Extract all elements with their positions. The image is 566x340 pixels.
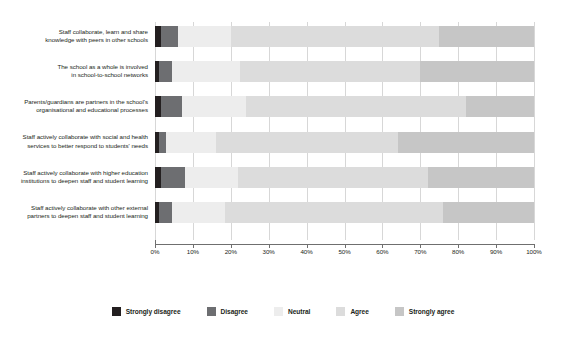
bar-segment [420,61,534,82]
chart-legend: Strongly disagreeDisagreeNeutralAgreeStr… [0,296,566,326]
tick-60 [382,244,383,248]
legend-swatch-icon [336,307,345,316]
x-tick-label-60: 60% [369,248,395,255]
category-label-line: Staff collaborate, learn and share [0,28,148,36]
category-label-line: knowledge with peers in other schools [0,36,148,44]
tick-90 [496,244,497,248]
tick-100 [534,244,535,248]
bar-segment [159,61,172,82]
bar-segment [240,61,420,82]
tick-20 [231,244,232,248]
tick-10 [193,244,194,248]
bar-segment [166,132,215,153]
category-label-line: Staff actively collaborate with higher e… [0,169,148,177]
gridline-100 [534,22,535,240]
tick-40 [307,244,308,248]
bar-segment [172,61,240,82]
bar-segment [246,96,466,117]
bar-row [155,26,534,47]
legend-item[interactable]: Neutral [274,307,310,316]
bar-row [155,167,534,188]
x-tick-label-30: 30% [256,248,282,255]
category-label: Staff actively collaborate with social a… [0,133,148,149]
bar-segment [231,26,439,47]
x-tick-label-70: 70% [407,248,433,255]
x-tick-label-10: 10% [180,248,206,255]
bar-segment [161,96,182,117]
bar-segment [439,26,534,47]
category-label-line: institutions to deepen staff and student… [0,177,148,185]
bar-row [155,202,534,223]
tick-50 [345,244,346,248]
legend-swatch-icon [274,307,283,316]
bar-segment [185,167,238,188]
bar-rows [155,22,534,240]
category-label-line: in school-to-school networks [0,71,148,79]
bar-segment [172,202,225,223]
category-axis-labels: Staff collaborate, learn and shareknowle… [0,22,148,240]
bar-segment [159,202,172,223]
legend-label: Neutral [288,308,310,315]
legend-label: Strongly agree [409,308,454,315]
legend-label: Disagree [221,308,248,315]
x-tick-label-20: 20% [218,248,244,255]
category-label-line: services to better respond to students' … [0,142,148,150]
x-tick-label-90: 90% [483,248,509,255]
bar-segment [178,26,231,47]
x-tick-label-0: 0% [142,248,168,255]
legend-item[interactable]: Disagree [207,307,248,316]
bar-segment [238,167,428,188]
category-label: Parents/guardians are partners in the sc… [0,98,148,114]
bar-segment [159,132,167,153]
category-label-line: Parents/guardians are partners in the sc… [0,98,148,106]
x-axis-tick-labels: 0%10%20%30%40%50%60%70%80%90%100% [0,248,566,262]
category-label-line: The school as a whole is involved [0,63,148,71]
tick-70 [420,244,421,248]
bar-segment [182,96,246,117]
category-label-line: Staff actively collaborate with other ex… [0,204,148,212]
legend-label: Strongly disagree [126,308,181,315]
category-label-line: Staff actively collaborate with social a… [0,133,148,141]
legend-swatch-icon [207,307,216,316]
category-label-line: organisational and educational processes [0,106,148,114]
bar-row [155,61,534,82]
legend-item[interactable]: Strongly disagree [112,307,181,316]
legend-item[interactable]: Strongly agree [395,307,454,316]
bar-segment [161,167,186,188]
bar-segment [428,167,534,188]
bar-row [155,96,534,117]
legend-item[interactable]: Agree [336,307,368,316]
x-tick-label-100: 100% [521,248,547,255]
category-label-line: partners to deepen staff and student lea… [0,212,148,220]
category-label: Staff collaborate, learn and shareknowle… [0,28,148,44]
bar-segment [161,26,178,47]
x-tick-label-80: 80% [445,248,471,255]
bar-row [155,132,534,153]
bar-segment [466,96,534,117]
x-tick-label-40: 40% [294,248,320,255]
category-label: Staff actively collaborate with higher e… [0,169,148,185]
legend-swatch-icon [395,307,404,316]
legend-swatch-icon [112,307,121,316]
category-label: Staff actively collaborate with other ex… [0,204,148,220]
plot-area [155,22,534,240]
stacked-bar-chart: Staff collaborate, learn and shareknowle… [0,0,566,340]
bar-segment [225,202,443,223]
bar-segment [216,132,398,153]
category-label: The school as a whole is involvedin scho… [0,63,148,79]
legend-label: Agree [350,308,368,315]
bar-segment [443,202,534,223]
bar-segment [398,132,534,153]
tick-0 [155,244,156,248]
x-tick-label-50: 50% [332,248,358,255]
tick-30 [269,244,270,248]
tick-80 [458,244,459,248]
